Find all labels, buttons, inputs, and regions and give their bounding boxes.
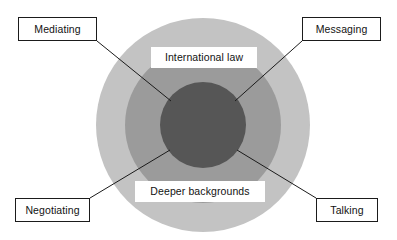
inner-label-international-law-text: International law [165,52,243,63]
inner-label-international-law: International law [151,47,257,68]
callout-box-talking: Talking [316,198,378,222]
callout-box-messaging: Messaging [302,17,381,41]
inner-label-deeper-backgrounds: Deeper backgrounds [135,181,265,202]
callout-label-mediating: Mediating [34,24,80,35]
callout-label-talking: Talking [330,205,363,216]
callout-label-negotiating: Negotiating [25,205,79,216]
inner-label-deeper-backgrounds-text: Deeper backgrounds [150,186,249,197]
callout-box-negotiating: Negotiating [15,198,90,222]
callout-box-mediating: Mediating [18,17,97,41]
callout-label-messaging: Messaging [316,24,368,35]
diagram-canvas: International law Deeper backgrounds Med… [0,0,397,240]
